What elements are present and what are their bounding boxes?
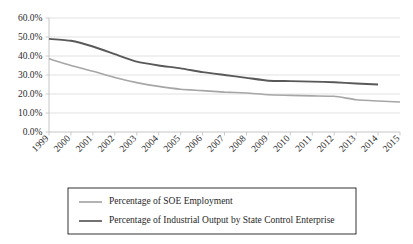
- x-axis-tick-label: 2011: [293, 133, 313, 153]
- legend-box: [68, 188, 356, 234]
- x-axis-tick-label: 2005: [162, 133, 183, 154]
- x-axis-tick-label: 2008: [227, 133, 248, 154]
- x-axis-tick-label: 2006: [183, 133, 204, 154]
- x-axis-tick-label: 2014: [359, 133, 380, 154]
- chart-legend: Percentage of SOE EmploymentPercentage o…: [68, 188, 356, 234]
- y-axis-tick-label: 10.0%: [18, 108, 43, 118]
- x-axis-tick-label: 2000: [52, 133, 73, 154]
- chart-container: 0.0%10.0%20.0%30.0%40.0%50.0%60.0% 19992…: [0, 0, 413, 244]
- y-axis-tick-label: 50.0%: [18, 32, 43, 42]
- x-axis-tick-label: 2012: [315, 133, 336, 154]
- x-axis-tick-label: 2001: [74, 133, 95, 154]
- data-series: [49, 39, 400, 102]
- x-axis-tick-label: 2013: [337, 133, 358, 154]
- y-axis-tick-label: 40.0%: [18, 51, 43, 61]
- x-axis-tick-label: 2007: [205, 133, 226, 154]
- y-axis: 0.0%10.0%20.0%30.0%40.0%50.0%60.0%: [18, 13, 49, 137]
- legend-label-2[interactable]: Percentage of Industrial Output by State…: [109, 215, 335, 225]
- x-axis-tick-label: 2015: [381, 133, 402, 154]
- x-axis-tick-label: 2003: [118, 133, 139, 154]
- y-axis-tick-label: 60.0%: [18, 13, 43, 23]
- y-axis-tick-label: 30.0%: [18, 70, 43, 80]
- series-line-2: [49, 39, 378, 85]
- y-axis-tick-label: 20.0%: [18, 89, 43, 99]
- x-axis-tick-label: 2009: [249, 133, 270, 154]
- series-line-1: [49, 59, 400, 102]
- x-axis-tick-label: 2004: [140, 133, 161, 154]
- legend-label-1[interactable]: Percentage of SOE Employment: [109, 196, 233, 206]
- x-axis: 1999200020012002200320042005200620072008…: [30, 132, 402, 154]
- x-axis-tick-label: 2010: [271, 133, 292, 154]
- line-chart: 0.0%10.0%20.0%30.0%40.0%50.0%60.0% 19992…: [0, 0, 413, 244]
- x-axis-tick-label: 2002: [96, 133, 117, 154]
